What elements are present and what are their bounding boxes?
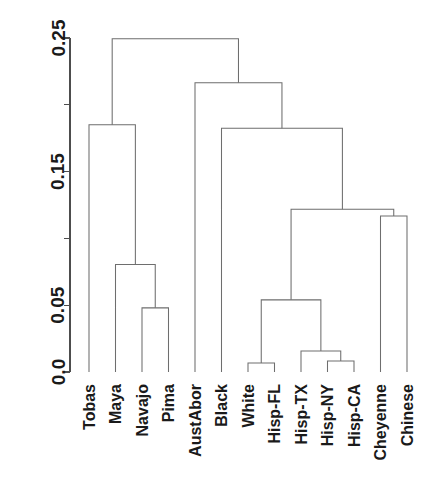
leaf-labels: TobasMayaNavajoPimaAustAborBlackWhiteHis… (81, 384, 416, 461)
dendrogram-branch (291, 209, 394, 300)
leaf-label: Hisp-TX (293, 384, 310, 445)
leaf-label: Hisp-NY (319, 384, 336, 447)
y-axis-tick-label: 0.15 (48, 153, 69, 190)
dendrogram-branch (248, 363, 275, 372)
dendrogram-branch (195, 83, 282, 372)
dendrogram-branch (89, 125, 135, 372)
dendrogram-branch (116, 264, 156, 372)
dendrogram-plot: 0.00.050.150.25 TobasMayaNavajoPimaAustA… (0, 0, 440, 497)
leaf-label: Cheyenne (372, 384, 389, 461)
leaf-label: Pima (160, 384, 177, 422)
dendrogram-branch (381, 216, 408, 372)
leaf-label: Navajo (134, 384, 151, 437)
y-axis-tick-label: 0.0 (48, 359, 69, 385)
dendrogram-branch (261, 300, 321, 363)
leaf-label: Chinese (399, 384, 416, 446)
y-axis-tick-label: 0.05 (48, 286, 69, 323)
dendrogram-tree (89, 39, 407, 372)
leaf-label: Maya (107, 384, 124, 424)
dendrogram-branch (142, 308, 169, 372)
dendrogram-canvas: 0.00.050.150.25 TobasMayaNavajoPimaAustA… (0, 0, 440, 497)
leaf-label: Hisp-CA (346, 384, 363, 448)
leaf-label: Tobas (81, 384, 98, 430)
leaf-label: AustAbor (187, 384, 204, 457)
leaf-label: Black (213, 384, 230, 427)
y-axis-tick-label: 0.25 (48, 19, 69, 56)
leaf-label: White (240, 384, 257, 428)
dendrogram-branch (112, 39, 238, 125)
dendrogram-branch (222, 128, 343, 372)
dendrogram-branch (328, 361, 355, 372)
y-axis: 0.00.050.150.25 (48, 19, 71, 385)
leaf-label: Hisp-FL (266, 384, 283, 444)
